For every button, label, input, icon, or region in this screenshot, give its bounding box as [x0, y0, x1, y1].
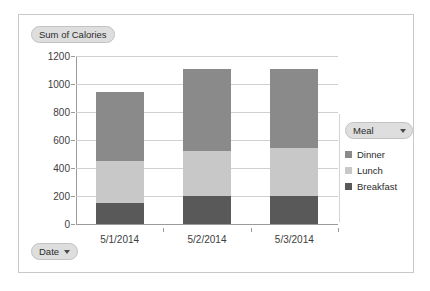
y-axis-tick-mark	[71, 140, 75, 141]
y-axis-tick-label: 200	[24, 191, 70, 202]
bar-segment-breakfast[interactable]	[183, 196, 231, 224]
legend-item-dinner[interactable]: Dinner	[345, 146, 411, 162]
y-axis-tick-mark	[71, 224, 75, 225]
y-axis: 020040060080010001200	[19, 56, 70, 224]
bar-segment-dinner[interactable]	[183, 69, 231, 152]
y-axis-tick-mark	[71, 112, 75, 113]
y-axis-tick-label: 0	[24, 219, 70, 230]
row-field-label: Date	[39, 244, 59, 259]
bar-stack[interactable]	[183, 56, 231, 224]
legend-swatch-icon	[345, 151, 352, 158]
legend-label: Dinner	[357, 149, 385, 160]
legend: Meal DinnerLunchBreakfast	[345, 120, 411, 194]
bar-segment-lunch[interactable]	[270, 148, 318, 196]
y-axis-tick-label: 1200	[24, 51, 70, 62]
legend-item-lunch[interactable]: Lunch	[345, 162, 411, 178]
x-axis-tick-mark	[163, 228, 164, 232]
y-axis-tick-label: 800	[24, 107, 70, 118]
chevron-down-icon	[400, 129, 406, 133]
y-axis-tick-label: 600	[24, 135, 70, 146]
bar-stack[interactable]	[96, 56, 144, 224]
pivot-chart-frame: Sum of Calories 020040060080010001200 5/…	[18, 14, 414, 273]
bar-segment-dinner[interactable]	[96, 92, 144, 161]
y-axis-tick-label: 400	[24, 163, 70, 174]
row-field-button[interactable]: Date	[31, 243, 78, 260]
y-axis-tick-mark	[71, 196, 75, 197]
plot-area	[76, 56, 338, 224]
legend-item-breakfast[interactable]: Breakfast	[345, 178, 411, 194]
legend-field-button[interactable]: Meal	[345, 122, 413, 139]
x-axis: 5/1/20145/2/20145/3/2014	[76, 228, 338, 246]
legend-label: Breakfast	[357, 181, 397, 192]
bar-segment-breakfast[interactable]	[96, 203, 144, 224]
gridline	[76, 224, 338, 225]
y-axis-tick-mark	[71, 84, 75, 85]
legend-items: DinnerLunchBreakfast	[345, 146, 411, 194]
y-axis-tick-mark	[71, 56, 75, 57]
bar-segment-dinner[interactable]	[270, 69, 318, 149]
bar-segment-lunch[interactable]	[183, 151, 231, 196]
y-axis-tick-label: 1000	[24, 79, 70, 90]
x-axis-tick-mark	[338, 228, 339, 232]
legend-swatch-icon	[345, 183, 352, 190]
legend-field-label: Meal	[353, 123, 374, 138]
value-field-button[interactable]: Sum of Calories	[31, 26, 115, 43]
x-axis-tick-label: 5/2/2014	[188, 234, 227, 245]
bar-segment-breakfast[interactable]	[270, 196, 318, 224]
value-field-label: Sum of Calories	[39, 27, 107, 42]
x-axis-tick-label: 5/3/2014	[275, 234, 314, 245]
chevron-down-icon	[64, 250, 70, 254]
legend-divider	[339, 114, 340, 222]
bar-segment-lunch[interactable]	[96, 161, 144, 203]
x-axis-tick-mark	[251, 228, 252, 232]
y-axis-tick-mark	[71, 168, 75, 169]
x-axis-tick-label: 5/1/2014	[100, 234, 139, 245]
legend-swatch-icon	[345, 167, 352, 174]
legend-label: Lunch	[357, 165, 383, 176]
bar-stack[interactable]	[270, 56, 318, 224]
